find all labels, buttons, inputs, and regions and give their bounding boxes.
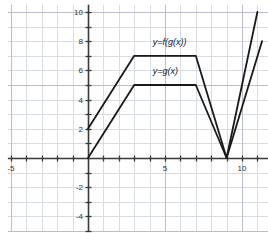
y-tick-label-neg4: -4 [76, 212, 84, 221]
y-tick-label-8: 8 [79, 37, 84, 46]
y-tick-label-2: 2 [79, 125, 84, 134]
x-tick-label-5: 5 [163, 164, 168, 173]
curve-label-0: y=f(g(x)) [153, 37, 187, 47]
coordinate-plane-plot: -5510-4-2246810 [0, 0, 268, 233]
y-tick-label-4: 4 [79, 96, 84, 105]
y-tick-label-6: 6 [79, 66, 84, 75]
y-tick-label-neg2: -2 [76, 183, 84, 192]
y-tick-label-10: 10 [74, 8, 83, 17]
x-tick-label-10: 10 [238, 164, 247, 173]
curve-label-1: y=g(x) [153, 66, 178, 76]
chart-figure: -5510-4-2246810 y=f(g(x))y=g(x) [0, 0, 268, 233]
x-tick-label-neg5: -5 [7, 164, 15, 173]
